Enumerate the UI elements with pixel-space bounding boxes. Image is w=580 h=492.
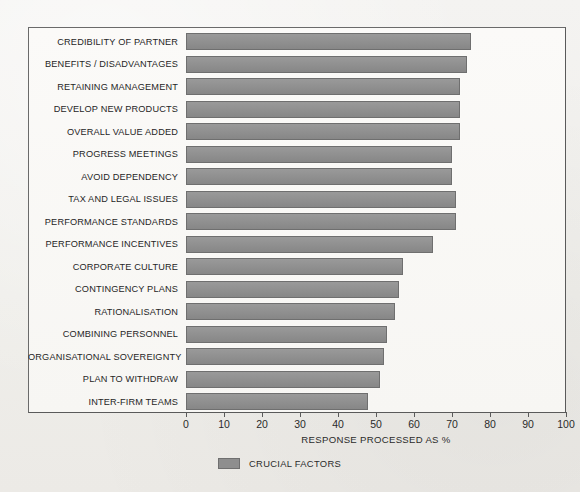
bar-row: DEVELOP NEW PRODUCTS xyxy=(28,99,566,122)
bar xyxy=(186,258,403,275)
bar-row: PLAN TO WITHDRAW xyxy=(28,369,566,392)
bar-row: INTER-FIRM TEAMS xyxy=(28,391,566,414)
bar xyxy=(186,33,471,50)
bar xyxy=(186,78,460,95)
x-axis-tick xyxy=(566,412,567,417)
bar-row-label: PERFORMANCE STANDARDS xyxy=(28,218,178,227)
bar xyxy=(186,303,395,320)
x-axis-tick-label: 80 xyxy=(484,418,496,430)
bar-shading xyxy=(187,147,451,162)
bar-row-label: PROGRESS MEETINGS xyxy=(28,150,178,159)
x-axis-tick xyxy=(262,412,263,417)
bar-shading xyxy=(187,372,379,387)
bar-row-label: RETAINING MANAGEMENT xyxy=(28,83,178,92)
bar-shading xyxy=(187,304,394,319)
bar-shading xyxy=(187,282,398,297)
bar-shading xyxy=(187,57,466,72)
bar-row-label: PLAN TO WITHDRAW xyxy=(28,375,178,384)
x-axis-tick xyxy=(224,412,225,417)
bar-row-label: DEVELOP NEW PRODUCTS xyxy=(28,105,178,114)
bar-row: BENEFITS / DISADVANTAGES xyxy=(28,54,566,77)
x-axis-tick xyxy=(490,412,491,417)
bar-shading xyxy=(187,349,383,364)
x-axis-tick xyxy=(528,412,529,417)
x-axis-tick xyxy=(338,412,339,417)
bar xyxy=(186,146,452,163)
bar xyxy=(186,213,456,230)
bar xyxy=(186,348,384,365)
bar-rows-container: CREDIBILITY OF PARTNERBENEFITS / DISADVA… xyxy=(28,29,566,411)
x-axis-tick-label: 100 xyxy=(557,418,575,430)
x-axis-tick xyxy=(452,412,453,417)
bar-row-label: AVOID DEPENDENCY xyxy=(28,173,178,182)
bar-row-label: INTER-FIRM TEAMS xyxy=(28,398,178,407)
bar xyxy=(186,56,467,73)
bar-row: CREDIBILITY OF PARTNER xyxy=(28,31,566,54)
bar-shading xyxy=(187,394,367,409)
x-axis-tick-label: 20 xyxy=(256,418,268,430)
bar-row: CORPORATE CULTURE xyxy=(28,256,566,279)
bar xyxy=(186,393,368,410)
bar-shading xyxy=(187,192,455,207)
bar-shading xyxy=(187,124,459,139)
bar-row-label: RATIONALISATION xyxy=(28,308,178,317)
x-axis-tick-label: 40 xyxy=(332,418,344,430)
bar-shading xyxy=(187,327,386,342)
x-axis-tick-label: 0 xyxy=(183,418,189,430)
x-axis-tick xyxy=(300,412,301,417)
bar-row: AVOID DEPENDENCY xyxy=(28,166,566,189)
bar-row: TAX AND LEGAL ISSUES xyxy=(28,189,566,212)
bar-row-label: TAX AND LEGAL ISSUES xyxy=(28,195,178,204)
bar xyxy=(186,371,380,388)
x-axis-tick xyxy=(376,412,377,417)
bar xyxy=(186,236,433,253)
bar-row: PERFORMANCE STANDARDS xyxy=(28,211,566,234)
x-axis-tick-label: 50 xyxy=(370,418,382,430)
x-axis-tick-label: 90 xyxy=(522,418,534,430)
bar-shading xyxy=(187,79,459,94)
bar xyxy=(186,101,460,118)
x-axis-tick-label: 70 xyxy=(446,418,458,430)
legend-label-crucial-factors: CRUCIAL FACTORS xyxy=(249,458,341,469)
bar xyxy=(186,281,399,298)
bar-row: RATIONALISATION xyxy=(28,301,566,324)
bar-row: ORGANISATIONAL SOVEREIGNTY xyxy=(28,346,566,369)
bar-row-label: BENEFITS / DISADVANTAGES xyxy=(28,60,178,69)
legend-swatch-crucial-factors xyxy=(218,458,240,469)
bar-row: COMBINING PERSONNEL xyxy=(28,324,566,347)
bar-shading xyxy=(187,214,455,229)
chart-legend: CRUCIAL FACTORS xyxy=(218,458,341,469)
x-axis-tick xyxy=(186,412,187,417)
bar xyxy=(186,191,456,208)
bar-shading xyxy=(187,102,459,117)
bar-row-label: COMBINING PERSONNEL xyxy=(28,330,178,339)
bar-shading xyxy=(187,34,470,49)
bar-shading xyxy=(187,259,402,274)
x-axis-tick xyxy=(414,412,415,417)
bar-row-label: CONTINGENCY PLANS xyxy=(28,285,178,294)
bar-row-label: OVERALL VALUE ADDED xyxy=(28,128,178,137)
bar xyxy=(186,123,460,140)
bar-row: RETAINING MANAGEMENT xyxy=(28,76,566,99)
bar-row-label: ORGANISATIONAL SOVEREIGNTY xyxy=(28,353,178,362)
x-axis-tick-label: 60 xyxy=(408,418,420,430)
x-axis-tick-label: 10 xyxy=(218,418,230,430)
bar-row-label: PERFORMANCE INCENTIVES xyxy=(28,240,178,249)
bar xyxy=(186,326,387,343)
bar-shading xyxy=(187,237,432,252)
bar-shading xyxy=(187,169,451,184)
bar-row: PERFORMANCE INCENTIVES xyxy=(28,234,566,257)
x-axis-tick-label: 30 xyxy=(294,418,306,430)
bar-row-label: CREDIBILITY OF PARTNER xyxy=(28,38,178,47)
bar-chart-figure: CREDIBILITY OF PARTNERBENEFITS / DISADVA… xyxy=(0,0,580,492)
x-axis-title: RESPONSE PROCESSED AS % xyxy=(186,434,566,445)
bar xyxy=(186,168,452,185)
bar-row-label: CORPORATE CULTURE xyxy=(28,263,178,272)
bar-row: PROGRESS MEETINGS xyxy=(28,144,566,167)
bar-row: OVERALL VALUE ADDED xyxy=(28,121,566,144)
bar-row: CONTINGENCY PLANS xyxy=(28,279,566,302)
